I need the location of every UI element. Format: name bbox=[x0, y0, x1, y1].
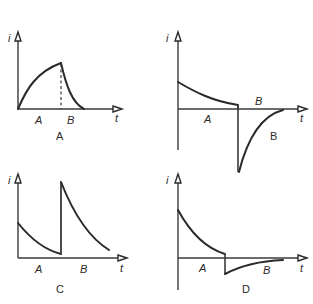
x-axis-label: t bbox=[120, 262, 124, 274]
panel-b: i t A B B bbox=[166, 32, 307, 172]
decay-curve bbox=[178, 210, 225, 254]
y-axis-label: i bbox=[166, 174, 169, 186]
y-axis-arrow-icon bbox=[175, 174, 181, 183]
y-axis-arrow-icon bbox=[15, 174, 21, 183]
y-axis-label: i bbox=[8, 174, 11, 186]
region-label-b: B bbox=[255, 95, 262, 107]
panel-caption: C bbox=[56, 283, 64, 295]
region-label-b: B bbox=[80, 263, 87, 275]
decay-curve bbox=[178, 82, 238, 109]
panel-caption: B bbox=[270, 130, 277, 142]
region-label-b: B bbox=[263, 264, 270, 276]
panel-caption: A bbox=[56, 130, 64, 142]
x-axis-label: t bbox=[115, 112, 119, 124]
region-label-a: A bbox=[34, 263, 42, 275]
panel-caption: D bbox=[242, 283, 250, 295]
panel-a: i t A B A bbox=[8, 32, 122, 142]
decay-curve bbox=[61, 63, 84, 109]
figure-canvas: i t A B A i t A B B i t A B C bbox=[0, 0, 313, 304]
region-label-a: A bbox=[34, 114, 42, 126]
region-label-a: A bbox=[203, 113, 211, 125]
decay-curve-a bbox=[18, 223, 61, 254]
y-axis-arrow-icon bbox=[175, 32, 181, 41]
rise-curve bbox=[18, 63, 61, 109]
region-label-b: B bbox=[67, 114, 74, 126]
x-axis-label: t bbox=[300, 262, 304, 274]
x-axis-arrow-icon bbox=[298, 255, 307, 261]
x-axis-arrow-icon bbox=[118, 255, 127, 261]
y-axis-label: i bbox=[166, 32, 169, 44]
panel-c: i t A B C bbox=[8, 174, 127, 295]
y-axis-label: i bbox=[8, 32, 11, 44]
x-axis-label: t bbox=[300, 112, 304, 124]
panel-d: i t A B D bbox=[166, 174, 307, 295]
recovery-curve bbox=[225, 260, 283, 274]
region-label-a: A bbox=[198, 262, 206, 274]
y-axis-arrow-icon bbox=[15, 32, 21, 41]
decay-curve-b bbox=[61, 182, 109, 250]
